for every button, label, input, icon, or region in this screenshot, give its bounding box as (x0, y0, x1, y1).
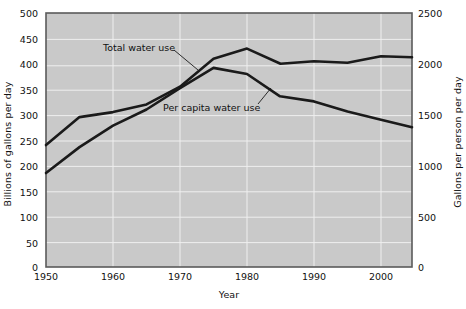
y-tick-right-2500: 2500 (418, 8, 458, 19)
y-tick-right-0: 0 (418, 262, 458, 273)
y-tick-right-2000: 2000 (418, 59, 458, 70)
y-tick-right-1500: 1500 (418, 110, 458, 121)
y-tick-left-100: 100 (4, 212, 38, 223)
y-tick-left-500: 500 (4, 8, 38, 19)
y-tick-right-500: 500 (418, 212, 458, 223)
y-tick-left-250: 250 (4, 136, 38, 147)
series-annotation-per-capita-water-use: Per capita water use (163, 102, 260, 113)
y-tick-left-350: 350 (4, 85, 38, 96)
x-tick-1950: 1950 (21, 271, 71, 282)
x-tick-1990: 1990 (289, 271, 339, 282)
x-tick-1960: 1960 (88, 271, 138, 282)
y-tick-left-50: 50 (4, 238, 38, 249)
y-tick-left-300: 300 (4, 110, 38, 121)
x-tick-1970: 1970 (155, 271, 205, 282)
y-tick-left-150: 150 (4, 187, 38, 198)
y-tick-left-400: 400 (4, 59, 38, 70)
x-tick-1980: 1980 (222, 271, 272, 282)
y-tick-left-450: 450 (4, 34, 38, 45)
water-use-chart: Billions of gallons per day Gallons per … (0, 0, 466, 309)
plot-area (0, 0, 466, 309)
y-tick-right-1000: 1000 (418, 161, 458, 172)
y-tick-left-200: 200 (4, 161, 38, 172)
x-tick-2000: 2000 (356, 271, 406, 282)
plot-background (46, 13, 412, 267)
series-annotation-total-water-use: Total water use (103, 42, 175, 53)
